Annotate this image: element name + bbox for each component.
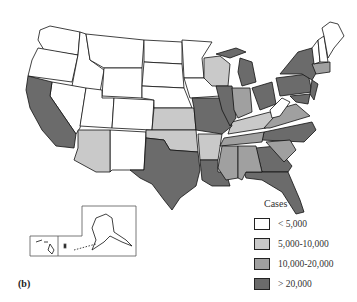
state-sd: [142, 62, 184, 88]
state-nd: [144, 40, 182, 64]
state-md: [290, 94, 310, 104]
legend-title: Cases: [264, 198, 333, 209]
state-co: [112, 98, 154, 130]
legend-label: < 5,000: [278, 219, 307, 229]
state-pa: [276, 74, 312, 96]
legend-item: > 20,000: [254, 274, 333, 294]
swatch-5000-10000: [254, 238, 270, 250]
panel-label: (b): [18, 278, 30, 289]
state-ks: [152, 108, 196, 130]
legend: Cases < 5,000 5,000-10,000 10,000-20,000…: [254, 198, 333, 294]
state-az: [74, 130, 110, 172]
state-tn: [220, 132, 264, 146]
state-nm: [110, 130, 146, 172]
legend-item: 5,000-10,000: [254, 234, 333, 254]
ak-hi-inset: [30, 206, 136, 256]
state-mt: [86, 34, 144, 68]
state-wi: [204, 56, 230, 86]
swatch-lt-5000: [254, 218, 270, 230]
legend-item: < 5,000: [254, 214, 333, 234]
state-mi: [238, 58, 256, 86]
state-oh: [252, 82, 276, 110]
legend-label: 5,000-10,000: [278, 239, 329, 249]
swatch-10000-20000: [254, 258, 270, 270]
legend-label: > 20,000: [278, 279, 312, 289]
state-ar: [198, 134, 222, 160]
state-nj: [310, 80, 318, 100]
swatch-gt-20000: [254, 278, 270, 290]
legend-item: 10,000-20,000: [254, 254, 333, 274]
legend-label: 10,000-20,000: [278, 259, 333, 269]
state-wy: [102, 68, 142, 98]
